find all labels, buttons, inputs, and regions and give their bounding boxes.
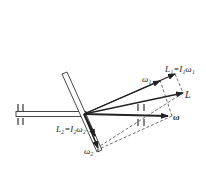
axle — [16, 112, 86, 117]
omega1-label: ω₁ — [142, 74, 151, 84]
L-label: L — [184, 89, 191, 100]
omega2-vector — [84, 114, 98, 148]
L-vector — [84, 93, 183, 114]
angular-momentum-diagram: ω₁ L₁=I₁ω₁ L ω L₂=I₂ω₂ ω₂ — [0, 0, 206, 177]
L1-vector — [84, 74, 175, 114]
L1-label: L₁=I₁ω₁ — [164, 64, 195, 74]
vectors — [84, 74, 183, 148]
omega2-label: ω₂ — [84, 146, 93, 156]
omega-vector — [84, 114, 168, 116]
omega-label: ω — [173, 112, 180, 122]
L2-label: L₂=I₂ω₂ — [55, 124, 86, 134]
construction-lines — [97, 74, 183, 152]
